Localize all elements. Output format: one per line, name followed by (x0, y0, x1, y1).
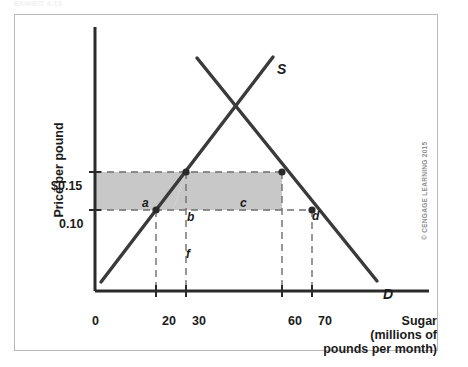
y-tick-label-015: $0.15 (51, 179, 82, 193)
shaded-region-c (186, 172, 282, 210)
x-tick-label-20: 20 (162, 314, 176, 328)
point-marker-30-015 (182, 168, 189, 175)
x-axis-title-line1: Sugar (402, 314, 437, 328)
point-marker-20-010 (152, 206, 159, 213)
x-axis-title-line2: (millions of (370, 328, 437, 342)
demand-curve-label: D (383, 286, 393, 302)
region-label-b: b (187, 210, 194, 224)
figure-root: EXHIBIT 4.13 (0, 0, 468, 367)
region-label-d: d (312, 209, 319, 223)
x-axis-title-line3: pounds per month) (323, 342, 437, 356)
figure-caption: EXHIBIT 4.13 (14, 0, 62, 7)
x-tick-label-30: 30 (192, 314, 206, 328)
y-tick-label-010: 0.10 (59, 217, 83, 231)
chart-frame: Price per pound $0.15 0.10 0 20 30 60 70… (14, 14, 438, 351)
region-label-f: f (186, 247, 190, 261)
x-axis-title: Sugar (millions of pounds per month) (265, 314, 437, 356)
region-label-a: a (142, 196, 149, 210)
point-marker-60-015 (278, 168, 285, 175)
supply-curve-label: S (277, 61, 286, 77)
region-label-c: c (240, 196, 247, 210)
demand-curve (197, 58, 377, 281)
x-tick-label-0: 0 (92, 314, 99, 328)
copyright-notice: © CENGAGE LEARNING 2015 (421, 130, 428, 240)
